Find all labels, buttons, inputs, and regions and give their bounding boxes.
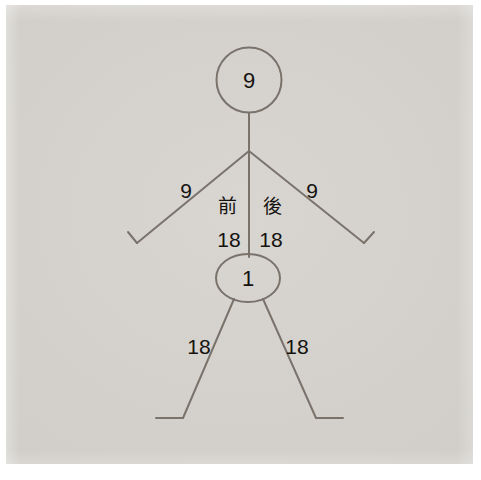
- left-leg-line: [183, 299, 234, 418]
- right-hand-icon: [364, 232, 374, 243]
- left-hand-icon: [128, 232, 137, 243]
- right-leg-line: [263, 299, 316, 418]
- torso-left-label: 18: [217, 228, 240, 251]
- stick-figure-diagram: 9 1 9 9 前 後 18: [6, 5, 473, 464]
- body-value: 1: [242, 266, 254, 291]
- front-label: 前: [218, 195, 237, 217]
- diagram-canvas: 9 1 9 9 前 後 18: [6, 5, 473, 464]
- left-leg-label: 18: [187, 335, 210, 358]
- head-value: 9: [243, 68, 255, 93]
- back-label: 後: [263, 195, 282, 217]
- screenshot-root: 9 1 9 9 前 後 18: [0, 0, 481, 480]
- right-leg-label: 18: [285, 335, 308, 358]
- torso-right-label: 18: [259, 228, 282, 251]
- right-arm-label: 9: [306, 179, 318, 202]
- left-arm-label: 9: [180, 179, 192, 202]
